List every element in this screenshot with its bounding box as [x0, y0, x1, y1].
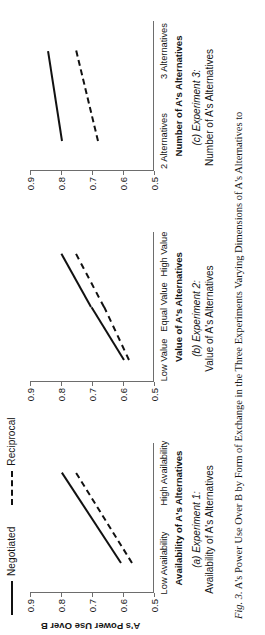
x-axis-title-a: Availability of A's Alternatives [173, 443, 184, 593]
y-tick-label: 0.9 [25, 177, 36, 190]
x-tick-label: 2 Alternatives [159, 113, 169, 169]
series-line-reciprocal [75, 472, 132, 563]
figure-caption-text: A's Power Use Over B by Form of Exchange… [233, 112, 244, 590]
sub-caption-c-label: (c) Experiment 3: [191, 69, 202, 145]
x-tick-label: Low Value [159, 339, 169, 382]
sub-captions: (a) Experiment 1: Availability of A's Al… [190, 0, 224, 635]
y-tick-mark [30, 382, 31, 386]
y-tick-mark [30, 171, 31, 175]
x-axis-line-c [153, 21, 154, 171]
panel-c: 0.50.60.70.80.9 2 Alternatives3 Alternat… [26, 2, 206, 213]
legend-swatch-dashed-icon [11, 471, 13, 505]
x-tick-label: High Value [159, 232, 169, 277]
x-tick-labels-b: Low ValueEqual ValueHigh Value [159, 232, 172, 382]
y-tick-label: 0.7 [87, 599, 98, 612]
plot-area-b: 0.50.60.70.80.9 [30, 232, 154, 382]
x-tick-labels-a: Low AvailabilityHigh Availability [159, 443, 172, 593]
y-axis-title-a: A's Power Use Over B [26, 619, 154, 633]
x-tick-label: Low Availability [159, 532, 169, 595]
x-tick-label: High Availability [159, 441, 169, 506]
y-tick-mark [92, 382, 93, 386]
figure-number: Fig. 3. [233, 591, 244, 619]
series-line-negotiated [61, 472, 122, 563]
legend-label-negotiated: Negotiated [6, 527, 17, 576]
y-tick-mark [61, 593, 62, 597]
y-tick-mark [154, 382, 155, 386]
y-axis-title-text: A's Power Use Over B [40, 620, 139, 631]
y-tick-label: 0.6 [118, 177, 129, 190]
y-tick-label: 0.7 [87, 177, 98, 190]
y-tick-label: 0.9 [25, 599, 36, 612]
figure-caption: Fig. 3. A's Power Use Over B by Form of … [232, 15, 246, 619]
y-tick-label: 0.9 [25, 388, 36, 401]
x-axis-line-a [153, 443, 154, 593]
figure-3: Negotiated Reciprocal A's Power Use Over… [0, 0, 265, 635]
panel-a: A's Power Use Over B 0.50.60.70.80.9 Low… [26, 424, 206, 635]
y-tick-label: 0.5 [149, 388, 160, 401]
sub-caption-c-title: Number of A's Alternatives [203, 2, 216, 213]
y-tick-mark [154, 593, 155, 597]
y-tick-mark [92, 593, 93, 597]
legend-label-reciprocal: Reciprocal [6, 417, 17, 465]
plot-area-a: 0.50.60.70.80.9 [30, 443, 154, 593]
sub-caption-a: (a) Experiment 1: Availability of A's Al… [190, 424, 224, 635]
y-tick-label: 0.8 [56, 177, 67, 190]
x-tick-label: 3 Alternatives [159, 23, 169, 79]
y-tick-mark [123, 382, 124, 386]
sub-caption-b-label: (b) Experiment 2: [191, 280, 202, 357]
legend: Negotiated Reciprocal [6, 417, 17, 615]
y-tick-label: 0.6 [118, 388, 129, 401]
sub-caption-b-title: Value of A's Alternatives [203, 213, 216, 424]
y-tick-label: 0.8 [56, 599, 67, 612]
sub-caption-a-label: (a) Experiment 1: [191, 491, 202, 568]
sub-caption-b: (b) Experiment 2: Value of A's Alternati… [190, 213, 224, 424]
y-tick-mark [61, 171, 62, 175]
legend-swatch-solid-icon [11, 581, 13, 615]
series-line-negotiated [47, 51, 63, 141]
panel-b: 0.50.60.70.80.9 Low ValueEqual ValueHigh… [26, 213, 206, 424]
rotated-figure-canvas: Negotiated Reciprocal A's Power Use Over… [0, 0, 265, 635]
plot-area-c: 0.50.60.70.80.9 [30, 21, 154, 171]
y-tick-label: 0.8 [56, 388, 67, 401]
x-axis-line-b [153, 232, 154, 382]
y-tick-mark [61, 382, 62, 386]
y-tick-mark [154, 171, 155, 175]
x-axis-title-b: Value of A's Alternatives [173, 232, 184, 382]
y-tick-mark [30, 593, 31, 597]
y-tick-mark [123, 593, 124, 597]
y-tick-label: 0.5 [149, 177, 160, 190]
panel-row: A's Power Use Over B 0.50.60.70.80.9 Low… [26, 0, 206, 635]
y-tick-mark [92, 171, 93, 175]
y-tick-label: 0.5 [149, 599, 160, 612]
x-tick-label: Equal Value [159, 282, 169, 331]
y-tick-label: 0.7 [87, 388, 98, 401]
x-axis-title-c: Number of A's Alternatives [173, 21, 184, 171]
series-line-reciprocal [75, 51, 99, 141]
legend-entry-negotiated: Negotiated [6, 527, 17, 615]
legend-entry-reciprocal: Reciprocal [6, 417, 17, 504]
x-tick-labels-c: 2 Alternatives3 Alternatives [159, 21, 172, 171]
series-line-negotiated [61, 254, 92, 308]
sub-caption-a-title: Availability of A's Alternatives [203, 424, 216, 635]
series-line-reciprocal [75, 254, 105, 308]
sub-caption-c: (c) Experiment 3: Number of A's Alternat… [190, 2, 224, 213]
y-tick-mark [123, 171, 124, 175]
y-tick-label: 0.6 [118, 599, 129, 612]
